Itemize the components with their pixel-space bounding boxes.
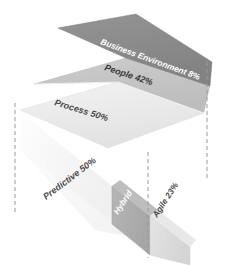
label-agile: Agile 23% [150, 180, 181, 220]
top-face-group [20, 14, 212, 148]
diagram-canvas: Business Environment 8% People 42% Proce… [0, 0, 241, 265]
isometric-proportion-diagram: Business Environment 8% People 42% Proce… [0, 0, 241, 265]
